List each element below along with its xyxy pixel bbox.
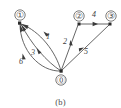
node-marker-1 <box>18 22 21 25</box>
node-1-label: ① <box>16 10 24 20</box>
node-marker-3 <box>109 23 112 26</box>
edge-label-4: 4 <box>92 10 96 19</box>
edge-label-3: 3 <box>30 48 35 57</box>
edge-labels: 1 3 6 2 5 4 <box>19 10 96 66</box>
arrowhead-mid-edge-4 <box>93 22 98 26</box>
edge-path-3 <box>21 24 61 71</box>
node-2-label: ② <box>75 11 83 21</box>
edge-path-2 <box>61 25 78 71</box>
edge-path-6 <box>20 24 61 71</box>
node-2[interactable]: ② <box>74 11 84 21</box>
edge-label-1: 1 <box>46 32 50 41</box>
edge-label-6: 6 <box>19 57 23 66</box>
node-0-label: ⓪ <box>57 75 66 85</box>
node-3-label: ③ <box>107 11 115 21</box>
figure-container: ① ② ③ ⓪ 1 3 6 2 5 4 (b) <box>0 0 121 108</box>
node-3[interactable]: ③ <box>106 11 116 21</box>
node-1[interactable]: ① <box>15 10 25 20</box>
node-marker-0 <box>60 70 63 73</box>
node-0[interactable]: ⓪ <box>56 75 66 86</box>
edge-path-1 <box>21 24 61 71</box>
graph-diagram: ① ② ③ ⓪ 1 3 6 2 5 4 <box>0 0 121 108</box>
node-marker-2 <box>78 23 81 26</box>
edge-group-0-to-1 <box>20 24 61 71</box>
edge-label-5: 5 <box>84 47 88 56</box>
edge-label-2: 2 <box>63 37 67 46</box>
figure-caption: (b) <box>0 97 121 107</box>
